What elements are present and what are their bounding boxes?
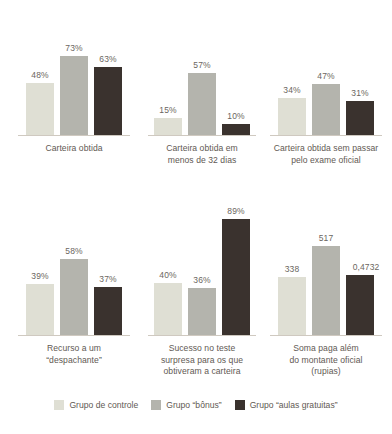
bar-value-label: 10% [227, 111, 244, 122]
legend-item-grupo-aulas-gratuitas[interactable]: Grupo “aulas gratuitas” [235, 400, 338, 410]
legend-label: Grupo “bônus” [166, 400, 221, 410]
bar-cluster: 15% 57% 10% [140, 3, 264, 135]
bar-slot: 338 [278, 195, 306, 335]
bar-series-grupo-de-controle[interactable] [278, 98, 306, 135]
axis-baseline [148, 335, 256, 336]
bar-value-label: 63% [99, 54, 116, 65]
bar-series-grupo-aulas-gratuitas[interactable] [222, 219, 250, 335]
bar-series-grupo-aulas-gratuitas[interactable] [346, 101, 374, 135]
axis-baseline [270, 335, 382, 336]
bar-slot: 517 [312, 195, 340, 335]
bar-slot: 34% [278, 3, 306, 135]
group-caption: Sucesso no teste surpresa para os que ob… [140, 343, 264, 378]
bar-value-label: 37% [99, 274, 116, 285]
bar-cluster: 48% 73% 63% [10, 3, 138, 135]
bar-slot: 40% [154, 195, 182, 335]
bar-slot: 36% [188, 195, 216, 335]
bar-series-grupo-de-controle[interactable] [154, 283, 182, 335]
bar-series-grupo-de-controle[interactable] [278, 277, 306, 335]
bar-value-label: 48% [31, 70, 48, 81]
chart-group-recurso-despachante: 39% 58% 37% Recurso a um “despacha [10, 196, 138, 386]
bar-slot: 57% [188, 3, 216, 135]
group-caption-line: Carteira obtida [10, 143, 138, 155]
bar-series-grupo-bonus[interactable] [60, 56, 88, 135]
legend-swatch-icon [54, 400, 64, 410]
bar-value-label: 15% [159, 105, 176, 116]
bar-series-grupo-aulas-gratuitas[interactable] [346, 275, 374, 335]
bar-slot: 15% [154, 3, 182, 135]
bar-value-label: 338 [285, 264, 299, 275]
bar-value-label: 31% [351, 88, 368, 99]
bar-series-grupo-bonus[interactable] [60, 259, 88, 335]
bar-slot: 10% [222, 3, 250, 135]
legend-label: Grupo de controle [69, 400, 138, 410]
chart-group-sucesso-teste-surpresa: 40% 36% 89% Sucesso no teste surpr [140, 196, 264, 386]
bar-slot: 47% [312, 3, 340, 135]
bar-slot: 89% [222, 195, 250, 335]
bar-slot: 0,4732 [346, 195, 374, 335]
chart-group-carteira-obtida: 48% 73% 63% Carteira obtida [10, 4, 138, 180]
plot-area: 39% 58% 37% [10, 196, 138, 336]
group-caption-line: obtiveram a carteira [140, 366, 264, 378]
group-caption-line: Carteira obtida sem passar [262, 143, 390, 155]
bar-slot: 58% [60, 195, 88, 335]
bar-value-label: 34% [283, 85, 300, 96]
group-caption: Carteira obtida [10, 143, 138, 155]
bar-value-label: 57% [193, 60, 210, 71]
group-caption-line: do montante oficial [262, 355, 390, 367]
group-caption-line: pelo exame oficial [262, 155, 390, 167]
axis-baseline [18, 335, 130, 336]
group-caption: Carteira obtida sem passar pelo exame of… [262, 143, 390, 166]
chart-legend: Grupo de controle Grupo “bônus” Grupo “a… [0, 400, 392, 410]
legend-swatch-icon [151, 400, 161, 410]
bar-slot: 63% [94, 3, 122, 135]
chart-panel-row-top: 48% 73% 63% Carteira obtida [0, 4, 392, 180]
bar-series-grupo-de-controle[interactable] [154, 118, 182, 135]
bar-cluster: 338 517 0,4732 [262, 195, 390, 335]
group-caption-line: Recurso a um [10, 343, 138, 355]
bar-value-label: 36% [193, 275, 210, 286]
bar-series-grupo-aulas-gratuitas[interactable] [94, 287, 122, 335]
bar-series-grupo-bonus[interactable] [188, 73, 216, 135]
plot-area: 40% 36% 89% [140, 196, 264, 336]
bar-slot: 39% [26, 195, 54, 335]
bar-series-grupo-bonus[interactable] [312, 246, 340, 335]
bar-slot: 48% [26, 3, 54, 135]
plot-area: 34% 47% 31% [262, 4, 390, 136]
bar-series-grupo-bonus[interactable] [312, 84, 340, 135]
bar-slot: 73% [60, 3, 88, 135]
plot-area: 338 517 0,4732 [262, 196, 390, 336]
legend-label: Grupo “aulas gratuitas” [250, 400, 338, 410]
axis-baseline [18, 135, 130, 136]
chart-group-soma-paga-alem: 338 517 0,4732 Soma paga além do m [262, 196, 390, 386]
bar-value-label: 89% [227, 206, 244, 217]
group-caption-line: surpresa para os que [140, 355, 264, 367]
legend-item-grupo-bonus[interactable]: Grupo “bônus” [151, 400, 221, 410]
chart-group-carteira-sem-exame-oficial: 34% 47% 31% Carteira obtida sem passar [262, 4, 390, 180]
bar-series-grupo-bonus[interactable] [188, 288, 216, 335]
bar-value-label: 39% [31, 271, 48, 282]
bar-cluster: 39% 58% 37% [10, 195, 138, 335]
bar-value-label: 517 [319, 233, 333, 244]
group-caption-line: Soma paga além [262, 343, 390, 355]
bar-series-grupo-de-controle[interactable] [26, 284, 54, 335]
bar-value-label: 73% [65, 43, 82, 54]
legend-item-grupo-de-controle[interactable]: Grupo de controle [54, 400, 138, 410]
bar-slot: 31% [346, 3, 374, 135]
group-caption-line: Sucesso no teste [140, 343, 264, 355]
group-caption-line: menos de 32 dias [140, 155, 264, 167]
bar-value-label: 0,4732 [353, 262, 380, 273]
bar-series-grupo-aulas-gratuitas[interactable] [94, 67, 122, 135]
bar-series-grupo-aulas-gratuitas[interactable] [222, 124, 250, 135]
group-caption-line: “despachante” [10, 355, 138, 367]
bar-series-grupo-de-controle[interactable] [26, 83, 54, 135]
group-caption: Carteira obtida em menos de 32 dias [140, 143, 264, 166]
group-caption-line: (rupias) [262, 366, 390, 378]
bar-value-label: 58% [65, 246, 82, 257]
axis-baseline [148, 135, 256, 136]
plot-area: 48% 73% 63% [10, 4, 138, 136]
chart-group-carteira-obtida-menos-32-dias: 15% 57% 10% Carteira obtida em men [140, 4, 264, 180]
bar-cluster: 40% 36% 89% [140, 195, 264, 335]
bar-cluster: 34% 47% 31% [262, 3, 390, 135]
bar-slot: 37% [94, 195, 122, 335]
